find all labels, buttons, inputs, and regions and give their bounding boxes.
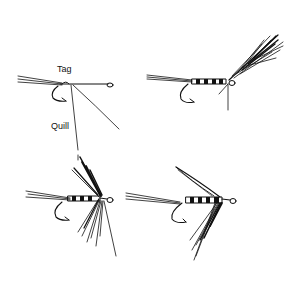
quill-label: Quill — [51, 122, 69, 131]
panel-step-3 — [26, 155, 116, 256]
panel-step-1 — [18, 76, 119, 150]
panel-step-4 — [126, 167, 236, 260]
tag-label: Tag — [57, 65, 72, 74]
panel-step-2 — [147, 35, 283, 110]
illustration — [0, 0, 295, 283]
fly-tying-diagram: Tag Quill — [0, 0, 295, 283]
